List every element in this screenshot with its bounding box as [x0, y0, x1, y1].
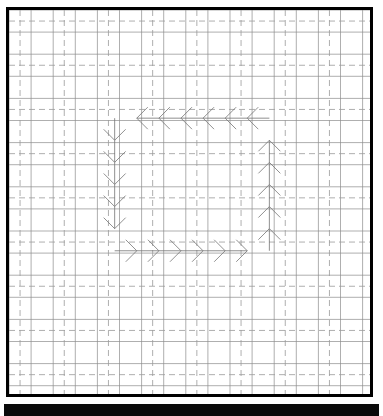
arrow-right — [181, 240, 203, 262]
arrow-up — [258, 140, 280, 162]
arrow-left — [225, 107, 247, 129]
arrow-up — [258, 229, 280, 251]
arrow-right — [159, 240, 181, 262]
figure-root — [0, 0, 383, 416]
arrow-down — [104, 140, 126, 162]
arrow-right — [137, 240, 159, 262]
arrow-down — [104, 162, 126, 184]
arrow-right — [225, 240, 247, 262]
vector-field-layer — [9, 10, 370, 394]
arrow-left — [247, 107, 269, 129]
arrow-left — [203, 107, 225, 129]
arrow-down — [104, 118, 126, 140]
arrow-left — [137, 107, 159, 129]
arrow-up — [258, 184, 280, 206]
arrow-right — [203, 240, 225, 262]
arrow-right — [115, 240, 137, 262]
arrow-down — [104, 184, 126, 206]
arrow-up — [258, 207, 280, 229]
plot-area — [9, 10, 370, 394]
plot-frame — [6, 7, 373, 397]
arrow-up — [258, 162, 280, 184]
bottom-black-bar — [4, 404, 379, 416]
arrow-left — [159, 107, 181, 129]
arrow-down — [104, 207, 126, 229]
arrow-left — [181, 107, 203, 129]
